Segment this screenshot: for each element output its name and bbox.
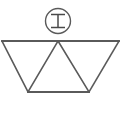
figure-canvas: Circled letter I above a trapezoid with … <box>0 0 131 125</box>
canvas-background <box>0 0 131 125</box>
line-drawing-svg <box>0 0 131 125</box>
